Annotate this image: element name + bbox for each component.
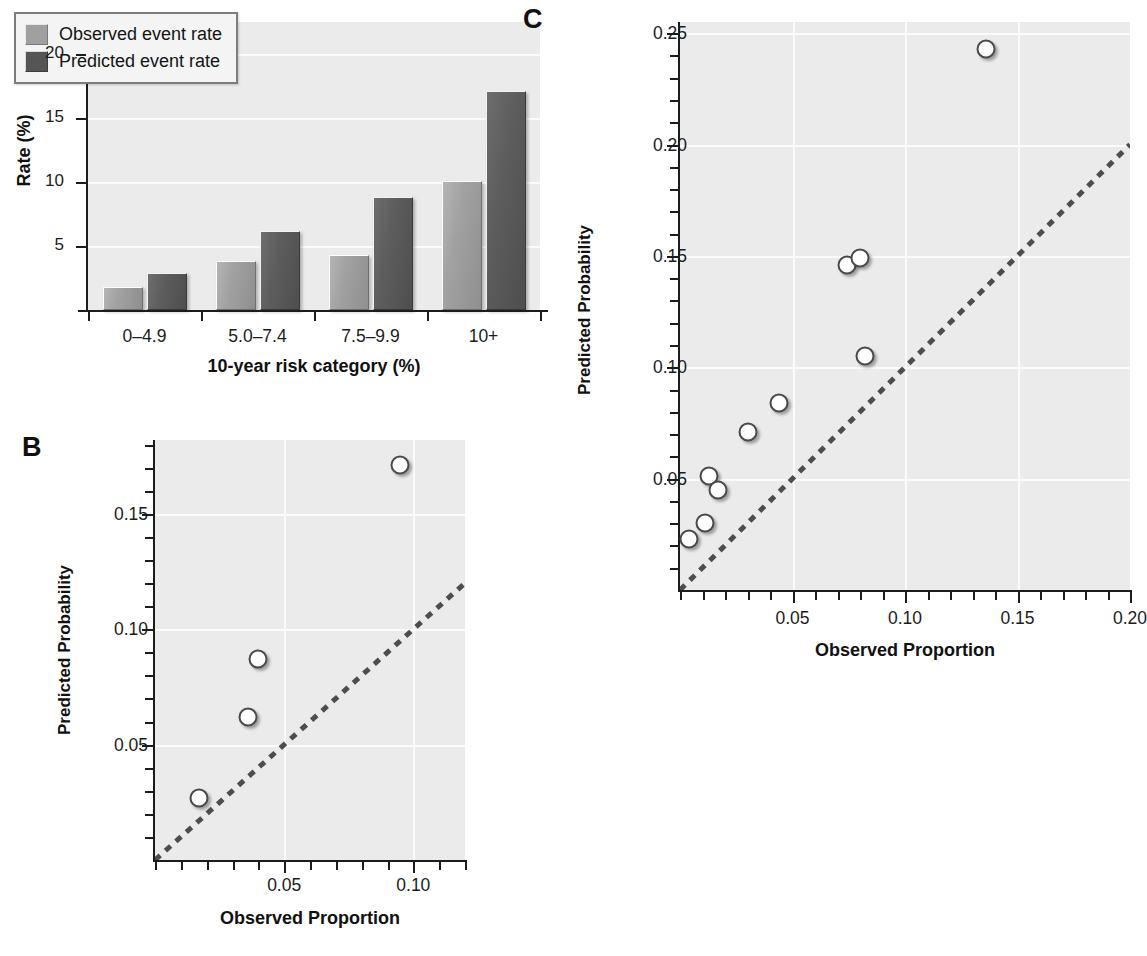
panel-b-x-tick-major	[413, 862, 415, 873]
panel-a-y-tick	[76, 118, 86, 120]
panel-b-y-axis-line	[153, 440, 155, 862]
panel-b-x-tick-label: 0.05	[267, 875, 301, 896]
panel-a-x-tick-label: 5.0–7.4	[228, 326, 286, 347]
panel-c-data-point	[770, 393, 789, 412]
legend-swatch-observed-icon	[25, 24, 48, 45]
panel-c-data-point	[851, 249, 870, 268]
panel-c-y-tick-minor	[670, 412, 678, 414]
panel-c-data-point	[977, 39, 996, 58]
panel-c-x-tick-label: 0.10	[888, 608, 922, 629]
panel-c-y-tick-label: 0.20	[653, 134, 687, 155]
panel-c-y-tick-minor	[670, 122, 678, 124]
panel-c-horizontal-gridline	[680, 256, 1130, 258]
panel-c-horizontal-gridline	[680, 145, 1130, 147]
panel-c-y-tick-minor	[670, 523, 678, 525]
panel-c-x-tick-minor	[950, 592, 952, 600]
panel-a-y-tick	[76, 246, 86, 248]
panel-a-y-tick-label: 20	[16, 43, 64, 63]
panel-a-x-tick	[427, 310, 429, 321]
panel-c-y-tick-minor	[670, 390, 678, 392]
panel-c-x-tick-major	[793, 592, 795, 603]
panel-c-y-tick-label: 0.25	[653, 23, 687, 44]
panel-b-horizontal-gridline	[155, 629, 465, 631]
panel-c-horizontal-gridline	[680, 479, 1130, 481]
panel-a-x-axis-line	[78, 310, 548, 312]
panel-c-vertical-gridline	[793, 22, 795, 590]
panel-b-y-tick-label: 0.05	[114, 734, 148, 755]
panel-c-x-tick-minor	[815, 592, 817, 600]
panel-c-x-tick-minor	[995, 592, 997, 600]
panel-a-x-tick-label: 0–4.9	[123, 326, 167, 347]
panel-c-x-tick-label: 0.15	[1000, 608, 1034, 629]
panel-c-horizontal-gridline	[680, 367, 1130, 369]
panel-letter-b: B	[22, 432, 42, 463]
panel-c-y-tick-minor	[670, 55, 678, 57]
panel-a-x-tick	[314, 310, 316, 321]
bar-observed	[442, 181, 482, 310]
panel-c-x-tick-minor	[1063, 592, 1065, 600]
bar-predicted	[147, 273, 187, 310]
panel-c-y-tick-minor	[670, 78, 678, 80]
panel-a-x-tick	[88, 310, 90, 321]
panel-c-y-tick-minor	[670, 345, 678, 347]
legend-label-observed: Observed event rate	[59, 24, 222, 45]
bar-observed	[216, 261, 256, 310]
panel-c-y-tick-minor	[670, 211, 678, 213]
panel-letter-c: C	[523, 4, 543, 35]
panel-c-x-tick-minor	[770, 592, 772, 600]
panel-c-x-tick-minor	[883, 592, 885, 600]
panel-c-x-tick-major	[905, 592, 907, 603]
panel-c-x-tick-minor	[703, 592, 705, 600]
panel-b-horizontal-gridline	[155, 514, 465, 516]
bar-observed	[329, 255, 369, 310]
panel-c-y-tick-minor	[670, 300, 678, 302]
panel-b-y-tick-minor	[145, 675, 153, 677]
panel-c-y-tick-label: 0.05	[653, 468, 687, 489]
panel-b-vertical-gridline	[284, 440, 286, 860]
panel-b-y-tick-label: 0.10	[114, 619, 148, 640]
panel-a-y-tick-label: 5	[16, 235, 64, 255]
panel-b-x-tick-label: 0.10	[396, 875, 430, 896]
panel-b-y-tick-minor	[145, 768, 153, 770]
panel-b-x-tick-minor	[362, 862, 364, 870]
bar-predicted	[260, 231, 300, 310]
panel-b-y-tick-minor	[145, 837, 153, 839]
panel-c-data-point	[709, 480, 728, 499]
panel-c-x-tick-label: 0.05	[775, 608, 809, 629]
panel-b-x-tick-minor	[439, 862, 441, 870]
panel-b-y-axis-title: Predicted Probability	[55, 565, 75, 735]
panel-a-x-tick	[201, 310, 203, 321]
panel-c-y-tick-minor	[670, 100, 678, 102]
panel-c-x-tick-minor	[725, 592, 727, 600]
panel-b-x-tick-minor	[181, 862, 183, 870]
panel-c-y-tick-minor	[670, 234, 678, 236]
panel-b-y-tick-minor	[145, 652, 153, 654]
panel-b-data-point	[391, 456, 410, 475]
panel-c-x-tick-minor	[860, 592, 862, 600]
panel-a-y-tick-label: 15	[16, 107, 64, 127]
panel-c-data-point	[695, 514, 714, 533]
panel-b-y-tick-minor	[145, 491, 153, 493]
panel-c-horizontal-gridline	[680, 33, 1130, 35]
panel-b-x-axis-title: Observed Proportion	[220, 908, 400, 929]
panel-c-y-tick-minor	[670, 167, 678, 169]
panel-c-data-point	[855, 347, 874, 366]
panel-b-x-tick-minor	[233, 862, 235, 870]
panel-b-y-tick-minor	[145, 606, 153, 608]
panel-b-scatter: B 0.050.100.150.050.10Predicted Probabil…	[0, 420, 560, 956]
panel-c-y-tick-minor	[670, 456, 678, 458]
panel-b-x-tick-major	[284, 862, 286, 873]
panel-a-x-axis-title: 10-year risk category (%)	[88, 356, 540, 377]
bar-observed	[103, 287, 143, 310]
panel-c-vertical-gridline	[905, 22, 907, 590]
panel-c-x-tick-label: 0.20	[1113, 608, 1147, 629]
panel-c-y-axis-line	[678, 22, 680, 592]
panel-c-y-tick-minor	[670, 189, 678, 191]
panel-b-data-point	[189, 788, 208, 807]
panel-c-y-tick-minor	[670, 323, 678, 325]
panel-b-x-tick-minor	[336, 862, 338, 870]
panel-a-gridline	[88, 118, 540, 120]
panel-b-y-tick-minor	[145, 722, 153, 724]
panel-b-x-tick-minor	[155, 862, 157, 870]
